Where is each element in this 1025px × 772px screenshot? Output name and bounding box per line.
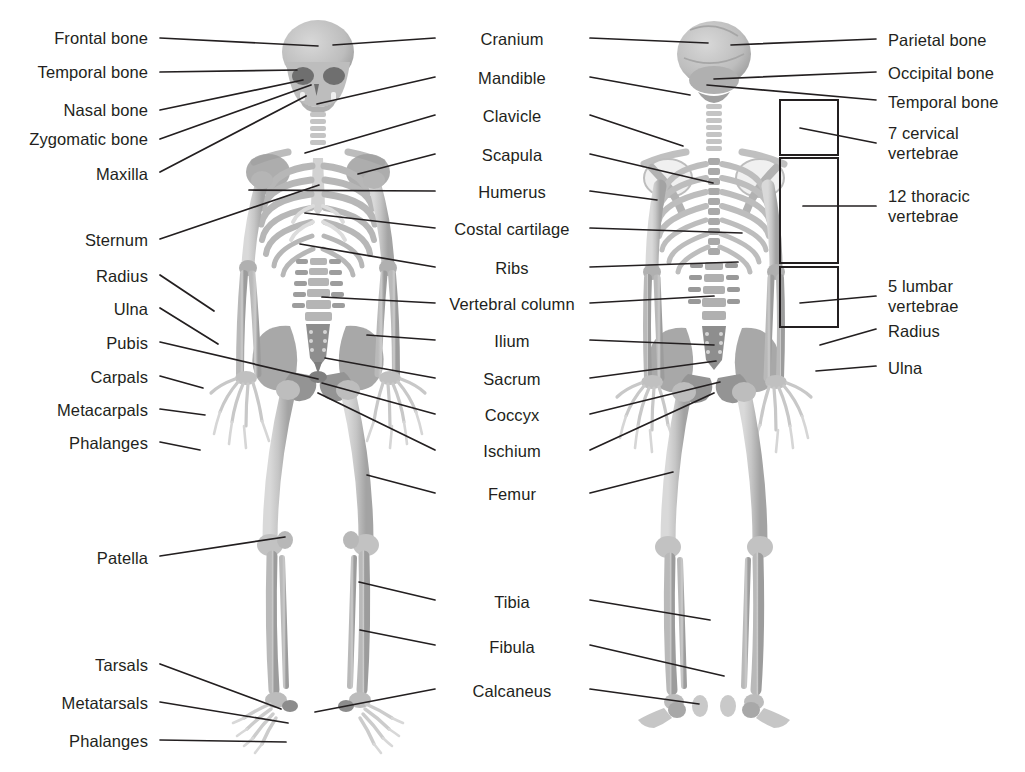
leader-line <box>160 85 311 139</box>
label-left-pubis: Pubis <box>0 333 148 353</box>
label-left-tarsals: Tarsals <box>0 655 148 675</box>
label-left-ulna: Ulna <box>0 299 148 319</box>
label-left-temporal-bone: Temporal bone <box>0 62 148 82</box>
leader-line <box>160 376 203 388</box>
label-center-coccyx: Coccyx <box>372 405 652 425</box>
label-center-calcaneus: Calcaneus <box>372 681 652 701</box>
leader-line <box>160 308 218 344</box>
leader-line <box>707 85 876 100</box>
label-left-radius: Radius <box>0 266 148 286</box>
label-left-phalanges: Phalanges <box>0 433 148 453</box>
cervical-bracket <box>780 100 838 155</box>
label-center-scapula: Scapula <box>372 145 652 165</box>
label-left-frontal-bone: Frontal bone <box>0 28 148 48</box>
leader-line <box>160 664 281 709</box>
label-left-maxilla: Maxilla <box>0 164 148 184</box>
label-center-sacrum: Sacrum <box>372 369 652 389</box>
label-left-carpals: Carpals <box>0 367 148 387</box>
leader-line <box>160 740 286 742</box>
leader-line <box>820 329 876 345</box>
leader-line <box>731 39 876 45</box>
label-left-patella: Patella <box>0 548 148 568</box>
label-center-cranium: Cranium <box>372 29 652 49</box>
label-left-sternum: Sternum <box>0 230 148 250</box>
label-center-humerus: Humerus <box>372 182 652 202</box>
label-center-mandible: Mandible <box>372 68 652 88</box>
leader-line <box>160 275 214 311</box>
skeleton-diagram: Frontal boneTemporal boneNasal boneZygom… <box>0 0 1025 772</box>
label-right-7-cervical: 7 cervical vertebrae <box>888 123 959 163</box>
label-right-parietal-bone: Parietal bone <box>888 30 987 50</box>
leader-line <box>160 442 200 450</box>
leader-line <box>160 409 205 415</box>
label-right-radius: Radius <box>888 321 940 341</box>
label-center-fibula: Fibula <box>372 637 652 657</box>
label-left-phalanges: Phalanges <box>0 731 148 751</box>
leader-line <box>160 70 297 72</box>
label-center-tibia: Tibia <box>372 592 652 612</box>
label-left-metacarpals: Metacarpals <box>0 400 148 420</box>
label-left-zygomatic-bone: Zygomatic bone <box>0 129 148 149</box>
label-right-5-lumbar: 5 lumbar vertebrae <box>888 276 959 316</box>
label-right-temporal-bone: Temporal bone <box>888 92 998 112</box>
leader-line <box>816 366 876 371</box>
label-left-metatarsals: Metatarsals <box>0 693 148 713</box>
label-right-12-thoracic: 12 thoracic vertebrae <box>888 186 970 226</box>
thoracic-bracket <box>780 158 838 263</box>
label-center-ilium: Ilium <box>372 331 652 351</box>
label-left-nasal-bone: Nasal bone <box>0 100 148 120</box>
label-center-vertebral-column: Vertebral column <box>372 294 652 314</box>
label-center-ribs: Ribs <box>372 258 652 278</box>
label-right-ulna: Ulna <box>888 358 922 378</box>
lumbar-bracket <box>780 267 838 327</box>
label-center-femur: Femur <box>372 484 652 504</box>
label-center-costal-cartilage: Costal cartilage <box>372 219 652 239</box>
label-center-clavicle: Clavicle <box>372 106 652 126</box>
label-center-ischium: Ischium <box>372 441 652 461</box>
label-right-occipital-bone: Occipital bone <box>888 63 994 83</box>
